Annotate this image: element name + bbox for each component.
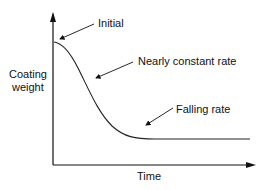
y-axis-label-line1: Coating <box>9 68 47 81</box>
annotation-constant-rate: Nearly constant rate <box>138 55 236 68</box>
x-axis-arrow-icon <box>246 162 256 168</box>
y-axis-label-line2: weight <box>12 81 44 94</box>
arrow-initial <box>60 24 94 39</box>
y-axis-arrow-icon <box>50 12 56 22</box>
arrow-constant <box>96 62 133 78</box>
annotation-falling-rate: Falling rate <box>176 103 230 116</box>
arrow-falling <box>146 108 173 125</box>
x-axis-label: Time <box>137 170 161 183</box>
chart-canvas <box>0 0 269 190</box>
annotation-initial: Initial <box>98 17 124 30</box>
